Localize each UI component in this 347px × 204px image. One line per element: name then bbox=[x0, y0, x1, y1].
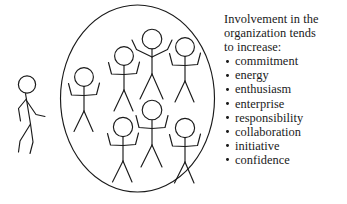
person-7-arm-right bbox=[185, 134, 201, 147]
walker-leg-back bbox=[19, 124, 31, 152]
list-item: confidence bbox=[224, 153, 347, 167]
list-item: energy bbox=[224, 68, 347, 82]
bullet-icon bbox=[226, 130, 229, 133]
bullet-icon bbox=[226, 60, 229, 63]
person-7-head bbox=[175, 118, 194, 137]
person-4-arm-left bbox=[170, 54, 186, 66]
person-6-leg-left bbox=[113, 161, 124, 182]
caption-heading-line-2: organization tends bbox=[224, 26, 316, 40]
person-5-leg-left bbox=[141, 145, 152, 167]
person-5-arm-left bbox=[136, 116, 152, 129]
person-1-arm-left bbox=[69, 84, 85, 96]
list-item-label: responsibility bbox=[235, 111, 303, 125]
bullet-icon bbox=[226, 88, 229, 91]
figure-container: Involvement in the organization tends to… bbox=[0, 0, 347, 204]
walker-arm-back bbox=[19, 99, 27, 121]
caption-heading-line-1: Involvement in the bbox=[224, 12, 319, 26]
walker-head bbox=[18, 76, 35, 93]
walker-arm-front bbox=[27, 101, 45, 117]
list-item-label: commitment bbox=[235, 54, 298, 68]
list-item: enterprise bbox=[224, 97, 347, 111]
bullet-icon bbox=[226, 74, 229, 77]
caption-heading: Involvement in the organization tends to… bbox=[224, 12, 347, 54]
list-item-label: energy bbox=[235, 68, 269, 82]
person-6-arm-right bbox=[123, 133, 139, 146]
person-4-head bbox=[176, 38, 195, 57]
person-6-leg-right bbox=[123, 161, 132, 182]
bullet-icon bbox=[226, 102, 229, 105]
person-outside-walking bbox=[18, 76, 45, 154]
person-inside-2 bbox=[109, 47, 140, 111]
person-3-leg-right bbox=[152, 74, 163, 99]
person-7-leg-left bbox=[175, 162, 186, 183]
person-3-head bbox=[142, 29, 162, 49]
bullet-icon bbox=[226, 144, 229, 147]
list-item: commitment bbox=[224, 54, 347, 68]
list-item-label: confidence bbox=[235, 153, 290, 167]
list-item: initiative bbox=[224, 139, 347, 153]
person-3-leg-left bbox=[140, 74, 152, 99]
list-item-label: collaboration bbox=[235, 125, 301, 139]
person-inside-5 bbox=[136, 100, 168, 167]
bullet-icon bbox=[226, 116, 229, 119]
person-1-leg-left bbox=[74, 111, 84, 132]
person-2-leg-right bbox=[124, 90, 133, 111]
person-6-arm-left bbox=[108, 134, 124, 146]
person-5-arm-right bbox=[152, 116, 168, 129]
person-1-arm-right bbox=[84, 83, 100, 96]
walker-torso bbox=[26, 94, 31, 125]
list-item-label: enthusiasm bbox=[235, 82, 291, 96]
list-item: collaboration bbox=[224, 125, 347, 139]
list-item-label: enterprise bbox=[235, 97, 284, 111]
person-inside-7 bbox=[170, 118, 201, 183]
person-4-leg-left bbox=[175, 81, 185, 102]
list-item: enthusiasm bbox=[224, 82, 347, 96]
person-4-arm-right bbox=[185, 53, 201, 66]
bullet-icon bbox=[226, 158, 229, 161]
person-1-leg-right bbox=[84, 111, 93, 132]
list-item: responsibility bbox=[224, 111, 347, 125]
person-inside-3 bbox=[132, 29, 172, 99]
person-2-leg-left bbox=[114, 90, 124, 111]
caption-heading-line-3: to increase: bbox=[224, 40, 281, 54]
person-6-head bbox=[113, 117, 132, 136]
walker-leg-front bbox=[30, 124, 33, 154]
person-2-arm-right bbox=[124, 62, 140, 75]
person-2-arm-left bbox=[109, 63, 125, 75]
person-inside-1 bbox=[69, 68, 100, 132]
caption-panel: Involvement in the organization tends to… bbox=[224, 12, 347, 167]
person-5-head bbox=[142, 100, 162, 120]
person-2-head bbox=[115, 47, 134, 66]
person-7-leg-right bbox=[185, 162, 194, 183]
person-inside-6 bbox=[108, 117, 139, 182]
list-item-label: initiative bbox=[235, 139, 280, 153]
person-4-leg-right bbox=[185, 81, 194, 102]
person-inside-4 bbox=[170, 38, 201, 102]
person-7-arm-left bbox=[170, 135, 186, 147]
benefits-list: commitment energy enthusiasm enterprise … bbox=[224, 54, 347, 167]
person-1-head bbox=[75, 68, 94, 87]
person-5-leg-right bbox=[152, 145, 162, 167]
